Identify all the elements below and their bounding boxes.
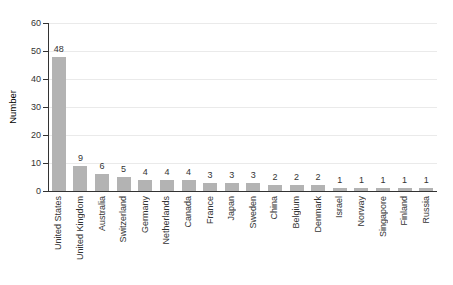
bar-value-label: 4 (164, 167, 169, 177)
x-tick-label: United States (53, 196, 64, 250)
x-tick-label: Sweden (248, 196, 259, 229)
y-axis-title-box: Number (6, 23, 20, 191)
y-axis-title: Number (7, 90, 19, 124)
bar-value-label: 1 (402, 175, 407, 185)
x-axis-line (48, 191, 437, 192)
bar-value-label: 3 (208, 170, 213, 180)
bar-value-label: 2 (316, 172, 321, 182)
x-tick-label: Denmark (313, 196, 324, 233)
gridline (49, 23, 437, 24)
y-tick-label: 50 (19, 46, 41, 57)
bar-value-label: 9 (78, 153, 83, 163)
bar (203, 183, 217, 191)
x-tick-label: Norway (356, 196, 367, 227)
gridline (49, 51, 437, 52)
x-tick-label: Singapore (378, 196, 389, 237)
bar (376, 188, 390, 191)
y-tick-label: 20 (19, 130, 41, 141)
bar-value-label: 6 (99, 161, 104, 171)
gridline (49, 79, 437, 80)
x-tick-label: China (269, 196, 280, 220)
x-tick-label: Belgium (291, 196, 302, 229)
bar (138, 180, 152, 191)
bar (73, 166, 87, 191)
bar (290, 185, 304, 191)
gridline (49, 107, 437, 108)
y-tick-label: 30 (19, 102, 41, 113)
bar-value-label: 2 (294, 172, 299, 182)
gridline (49, 163, 437, 164)
bar (225, 183, 239, 191)
x-tick-label: Canada (183, 196, 194, 228)
bar-value-label: 3 (251, 170, 256, 180)
bar-value-label: 1 (359, 175, 364, 185)
bar (333, 188, 347, 191)
bar-value-label: 1 (380, 175, 385, 185)
bar (117, 177, 131, 191)
bar (182, 180, 196, 191)
bar (52, 57, 66, 191)
y-axis-line (48, 23, 49, 192)
x-tick-label: Switzerland (118, 196, 129, 243)
bar (419, 188, 433, 191)
bar-value-label: 5 (121, 164, 126, 174)
bar (95, 174, 109, 191)
bar-value-label: 4 (186, 167, 191, 177)
x-tick-label: Japan (226, 196, 237, 221)
bar-value-label: 3 (229, 170, 234, 180)
bar-value-label: 4 (143, 167, 148, 177)
bar (398, 188, 412, 191)
bar-value-label: 1 (337, 175, 342, 185)
bar-value-label: 1 (424, 175, 429, 185)
bar (311, 185, 325, 191)
bar (354, 188, 368, 191)
y-tick-label: 0 (19, 186, 41, 197)
bar (246, 183, 260, 191)
x-tick-label: Russia (421, 196, 432, 224)
x-tick-label: Finland (399, 196, 410, 226)
bar-value-label: 2 (272, 172, 277, 182)
y-tick-label: 10 (19, 158, 41, 169)
x-tick-label: Germany (140, 196, 151, 233)
x-tick-label: Israel (334, 196, 345, 218)
bar (268, 185, 282, 191)
x-tick-label: Australia (97, 196, 108, 231)
bar (160, 180, 174, 191)
x-tick-label: France (205, 196, 216, 224)
y-tick-label: 60 (19, 18, 41, 29)
gridline (49, 135, 437, 136)
bar-value-label: 48 (54, 44, 64, 54)
x-tick-label: United Kingdom (75, 196, 86, 260)
bar-chart: Number 010203040506048United States9Unit… (0, 0, 453, 285)
x-tick-label: Netherlands (161, 196, 172, 245)
y-tick-label: 40 (19, 74, 41, 85)
